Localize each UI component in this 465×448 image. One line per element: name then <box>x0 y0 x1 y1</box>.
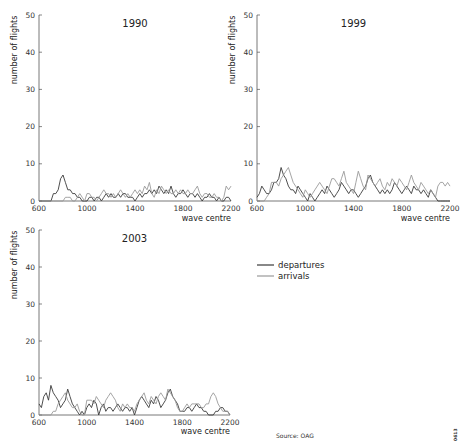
y-axis-title: number of flights <box>228 16 237 85</box>
y-axis-title: number of flights <box>10 16 19 85</box>
y-tick-label: 50 <box>25 226 35 235</box>
y-tick-label: 30 <box>25 85 35 94</box>
series-arrivals <box>257 168 450 202</box>
series-departures <box>257 168 450 202</box>
x-tick-label: 1800 <box>392 204 411 213</box>
y-tick-label: 20 <box>243 122 253 131</box>
x-tick-label: 600 <box>32 418 47 427</box>
x-tick-label: 1800 <box>173 204 192 213</box>
y-tick-label: 40 <box>243 48 253 57</box>
y-axis-title: number of flights <box>10 231 19 300</box>
figure-canvas: 0102030405060010001400180022001990number… <box>0 0 465 448</box>
panel-title: 1999 <box>341 18 366 29</box>
x-tick-label: 1400 <box>125 418 144 427</box>
x-tick-label: 1400 <box>125 204 144 213</box>
y-tick-label: 50 <box>25 11 35 20</box>
y-tick-label: 20 <box>25 122 35 131</box>
y-tick-label: 40 <box>25 48 35 57</box>
x-tick-label: 600 <box>250 204 265 213</box>
x-axis-title: wave centre <box>182 214 231 223</box>
panel-1999: 0102030405060010001400180022001999number… <box>228 11 460 224</box>
x-tick-label: 1800 <box>173 418 192 427</box>
x-tick-label: 2200 <box>220 418 239 427</box>
series-arrivals <box>39 182 231 201</box>
x-tick-label: 2200 <box>221 204 240 213</box>
panel-2003: 0102030405060010001400180022002003number… <box>10 226 240 437</box>
x-tick-label: 1000 <box>296 204 315 213</box>
panel-1990: 0102030405060010001400180022001990number… <box>10 11 241 224</box>
y-tick-label: 20 <box>25 337 35 346</box>
x-tick-label: 1000 <box>77 418 96 427</box>
panel-title: 1990 <box>122 18 147 29</box>
x-tick-label: 600 <box>32 204 47 213</box>
legend-departures-label: departures <box>278 260 325 270</box>
y-tick-label: 10 <box>25 374 35 383</box>
panel-title: 2003 <box>122 233 147 244</box>
y-tick-label: 30 <box>243 85 253 94</box>
x-axis-title: wave centre <box>181 427 230 436</box>
y-tick-label: 10 <box>243 159 253 168</box>
x-axis-title: wave centre <box>401 214 450 223</box>
legend-arrivals-label: arrivals <box>278 271 310 281</box>
figure-code: 0613 <box>453 428 458 441</box>
x-tick-label: 2200 <box>440 204 459 213</box>
y-tick-label: 50 <box>243 11 253 20</box>
legend: departures arrivals <box>257 260 325 281</box>
y-tick-label: 10 <box>25 159 35 168</box>
x-tick-label: 1000 <box>77 204 96 213</box>
y-tick-label: 40 <box>25 263 35 272</box>
y-tick-label: 30 <box>25 300 35 309</box>
series-arrivals <box>39 389 230 415</box>
x-tick-label: 1400 <box>344 204 363 213</box>
source-note: Source: OAG <box>276 432 314 439</box>
